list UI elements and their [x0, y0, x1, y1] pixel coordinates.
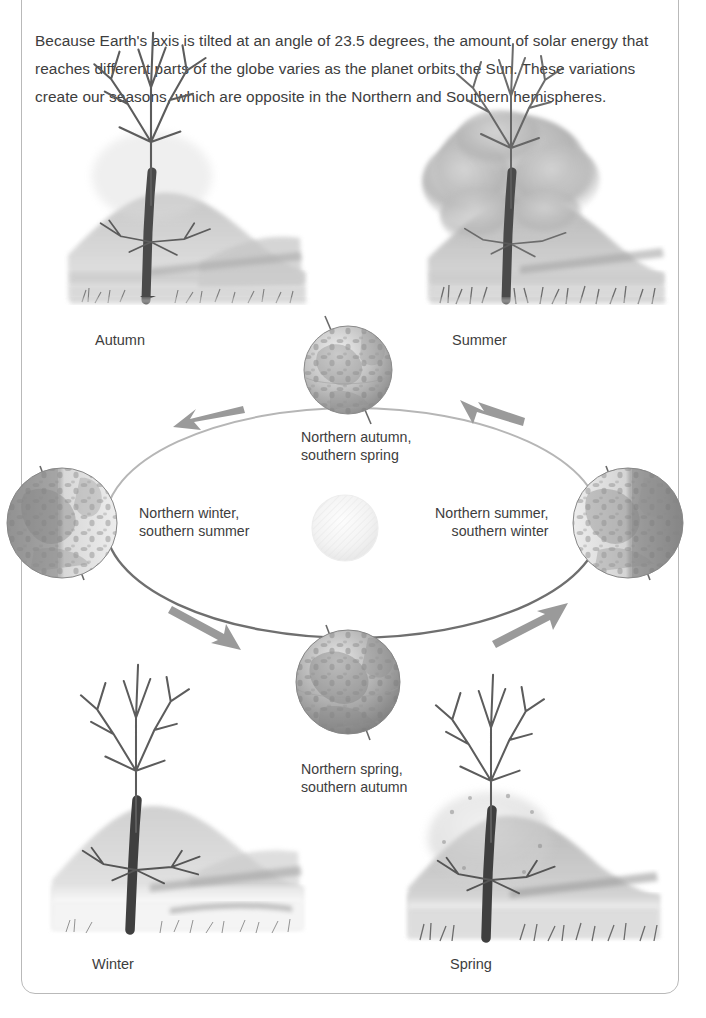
orbit-caption-northern-autumn: Northern autumn, southern spring [301, 428, 411, 464]
season-label-autumn: Autumn [95, 332, 145, 348]
orbit-caption-line1: Northern spring, [301, 760, 407, 778]
earth-northern-winter [7, 466, 119, 580]
orbit-caption-line1: Northern winter, [139, 504, 249, 522]
earth-northern-spring [296, 625, 402, 740]
orbit-caption-line2: southern summer [139, 522, 249, 540]
orbit-caption-northern-winter: Northern winter, southern summer [139, 504, 249, 540]
orbit-layer [0, 0, 706, 1018]
orbit-caption-northern-spring: Northern spring, southern autumn [301, 760, 407, 796]
arrow-top-left [173, 406, 245, 430]
orbit-caption-line2: southern winter [435, 522, 549, 540]
arrow-bottom-right [492, 603, 568, 648]
orbit-caption-line1: Northern autumn, [301, 428, 411, 446]
orbit-caption-northern-summer: Northern summer, southern winter [435, 504, 549, 540]
season-label-winter: Winter [92, 956, 134, 972]
orbit-caption-line2: southern autumn [301, 778, 407, 796]
earth-northern-summer [573, 466, 685, 580]
arrow-bottom-left [168, 606, 241, 650]
orbit-caption-line2: southern spring [301, 446, 411, 464]
seasons-diagram: Autumn Summer Winter Spring Northern aut… [0, 0, 706, 1018]
season-label-summer: Summer [452, 332, 507, 348]
season-label-spring: Spring [450, 956, 492, 972]
sun [312, 495, 378, 561]
orbit-caption-line1: Northern summer, [435, 504, 549, 522]
